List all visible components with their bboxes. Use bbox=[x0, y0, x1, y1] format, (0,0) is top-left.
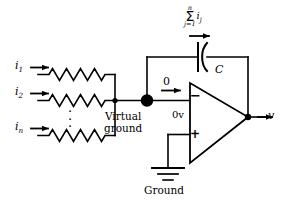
input-branch-n bbox=[31, 129, 115, 142]
output-node-dot bbox=[245, 114, 251, 120]
label-ground: Ground bbox=[144, 185, 184, 196]
label-input-offset-voltage: 0v bbox=[172, 110, 184, 121]
capacitor-C bbox=[198, 43, 207, 71]
summation-lower-limit: j=1 bbox=[184, 21, 196, 28]
label-current-i1: i1 bbox=[15, 60, 23, 72]
virtual-ground-line-1: Virtual bbox=[104, 110, 142, 122]
circuit-schematic-svg bbox=[0, 0, 285, 208]
virtual-ground-line-2: ground bbox=[104, 122, 142, 134]
label-virtual-ground: Virtual ground bbox=[104, 110, 142, 134]
label-feedback-current-sum: n Σ j=1 ij bbox=[184, 5, 202, 27]
ellipsis-dot-3: . bbox=[67, 119, 73, 127]
label-output-voltage: v bbox=[268, 110, 274, 122]
label-current-in: in bbox=[15, 121, 23, 133]
ground-symbol bbox=[152, 168, 184, 180]
label-zero-current: 0 bbox=[163, 76, 170, 88]
bus-junction-dot bbox=[112, 98, 117, 103]
label-capacitor: C bbox=[215, 64, 223, 76]
input-branch-1 bbox=[31, 68, 115, 81]
circuit-diagram: i1 i2 in . . . 0 Virtual ground 0v − + C… bbox=[0, 0, 285, 208]
summation-term: ij bbox=[196, 11, 202, 22]
resistor-2 bbox=[38, 95, 115, 107]
input-branch-2 bbox=[31, 94, 115, 107]
summation-operator: n Σ j=1 bbox=[184, 5, 196, 27]
input-branches-ellipsis: . . . bbox=[67, 104, 73, 127]
resistor-1 bbox=[38, 69, 115, 81]
label-inverting-input: − bbox=[190, 89, 201, 103]
label-noninverting-input: + bbox=[190, 128, 200, 141]
label-current-i2: i2 bbox=[15, 86, 23, 98]
